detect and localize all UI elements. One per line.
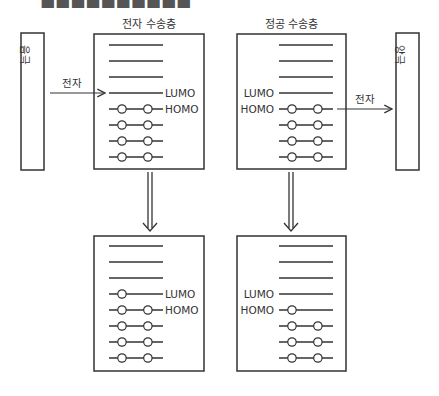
electron-icon — [144, 306, 152, 314]
anode-electrode: 양극 — [394, 33, 420, 170]
energy-level — [109, 137, 163, 145]
cropped-header: ■■■■■■■■■■ — [40, 0, 191, 10]
electron-icon — [118, 153, 126, 161]
panel-title: 전자 수송층 — [122, 18, 176, 31]
electron-icon — [314, 354, 322, 362]
electron-icon — [118, 105, 126, 113]
energy-level: HOMO — [241, 304, 333, 316]
energy-level — [109, 322, 163, 330]
panel-box — [94, 34, 204, 169]
energy-level — [279, 137, 333, 145]
electron-icon — [288, 137, 296, 145]
energy-level — [109, 354, 163, 362]
energy-level — [279, 121, 333, 129]
energy-level: HOMO — [241, 103, 333, 115]
electron-icon — [118, 306, 126, 314]
electron-icon — [314, 153, 322, 161]
electron-icon — [288, 306, 296, 314]
electron-icon — [314, 121, 322, 129]
electron-label-left: 전자 — [62, 77, 82, 89]
electron-icon — [288, 338, 296, 346]
lumo-label: LUMO — [244, 87, 274, 99]
electron-icon — [314, 137, 322, 145]
electron-icon — [314, 105, 322, 113]
panel-etl-before: 전자 수송층LUMOHOMO — [94, 18, 204, 169]
lumo-label: LUMO — [165, 87, 195, 99]
electron-icon — [118, 322, 126, 330]
energy-level: LUMO — [109, 87, 195, 99]
energy-level — [279, 338, 333, 346]
energy-level — [109, 338, 163, 346]
lumo-label: LUMO — [165, 288, 195, 300]
electron-label-right: 전자 — [355, 93, 375, 105]
electron-icon — [118, 338, 126, 346]
electron-icon — [314, 322, 322, 330]
energy-level — [279, 322, 333, 330]
panel-box — [237, 34, 346, 169]
energy-level — [279, 153, 333, 161]
electron-icon — [288, 354, 296, 362]
electron-icon — [314, 338, 322, 346]
electron-icon — [288, 153, 296, 161]
homo-label: HOMO — [165, 304, 198, 316]
panel-htl-before: 정공 수송층LUMOHOMO — [237, 18, 346, 169]
energy-level: HOMO — [109, 103, 198, 115]
homo-label: HOMO — [165, 103, 198, 115]
oled-energy-diagram: ■■■■■■■■■■ 음극 양극 전자 전자 전자 수송층LUMOHOMO정공 … — [0, 0, 439, 396]
lumo-label: LUMO — [244, 288, 274, 300]
energy-level: LUMO — [244, 288, 333, 300]
homo-label: HOMO — [241, 103, 274, 115]
double-down-arrow-icon — [284, 172, 298, 231]
electron-icon — [118, 137, 126, 145]
electron-icon — [288, 105, 296, 113]
transport-layer-panels: 전자 수송층LUMOHOMO정공 수송층LUMOHOMOLUMOHOMOLUMO… — [94, 18, 346, 371]
electron-icon — [144, 322, 152, 330]
electron-injection-arrow: 전자 — [50, 77, 105, 93]
electron-icon — [118, 121, 126, 129]
cathode-label: 음극 — [19, 45, 31, 65]
double-down-arrow-icon — [143, 172, 157, 231]
panel-etl-after: LUMOHOMO — [94, 236, 204, 371]
cropped-header-text: ■■■■■■■■■■ — [40, 0, 191, 10]
homo-label: HOMO — [241, 304, 274, 316]
energy-level — [279, 354, 333, 362]
cathode-electrode: 음극 — [19, 33, 45, 170]
electron-icon — [144, 153, 152, 161]
electron-icon — [144, 354, 152, 362]
electron-icon — [288, 121, 296, 129]
energy-level: HOMO — [109, 304, 198, 316]
energy-level — [109, 121, 163, 129]
transition-arrows — [143, 172, 298, 231]
electron-icon — [144, 105, 152, 113]
anode-label: 양극 — [394, 45, 406, 65]
electron-icon — [144, 338, 152, 346]
energy-level — [109, 153, 163, 161]
electron-icon — [144, 121, 152, 129]
panel-htl-after: LUMOHOMO — [237, 236, 346, 371]
panel-title: 정공 수송층 — [265, 18, 319, 31]
electron-icon — [118, 290, 126, 298]
energy-level: LUMO — [109, 288, 195, 300]
electron-icon — [118, 354, 126, 362]
energy-level: LUMO — [244, 87, 333, 99]
electron-icon — [144, 137, 152, 145]
electron-icon — [288, 322, 296, 330]
